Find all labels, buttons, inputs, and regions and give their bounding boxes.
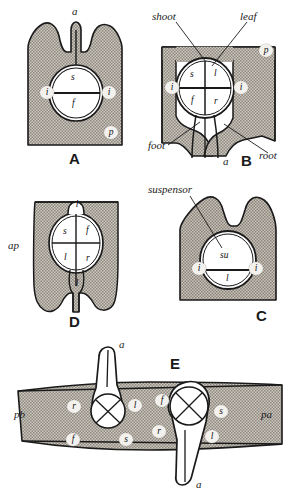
panel-d-bottom-l: l	[70, 277, 84, 290]
panel-e-left-r: r	[67, 400, 81, 413]
panel-e-left-f: f	[66, 433, 80, 446]
panel-letter-b: B	[241, 152, 252, 169]
panel-b-inner-r: r	[214, 96, 218, 106]
panel-c-drawing	[180, 196, 276, 300]
panel-a-side-right-i: i	[102, 86, 116, 99]
panel-e-right-f: f	[155, 394, 169, 407]
panel-d-drawing	[34, 202, 118, 312]
panel-b-tissue-p: p	[259, 44, 273, 57]
panel-letter-c: C	[256, 307, 267, 324]
panel-e-tissue-pb: pb	[14, 408, 25, 420]
panel-e-drawing	[18, 347, 282, 485]
callout-root: root	[259, 149, 277, 161]
callout-leaf: leaf	[240, 10, 257, 22]
panel-e-left-apex-a: a	[119, 338, 125, 350]
panel-b-drawing	[162, 22, 280, 158]
callout-shoot: shoot	[152, 10, 176, 22]
panel-letter-e: E	[170, 355, 180, 372]
panel-c-inner-su: su	[220, 250, 228, 260]
panel-e-left-l: l	[128, 399, 142, 412]
panel-e-right-r: r	[152, 425, 166, 438]
panel-e-right-s: s	[214, 405, 228, 418]
panel-e-right-l: l	[205, 430, 219, 443]
figure-root: a s f i i p A shoot leaf foot root s l f…	[0, 0, 294, 495]
panel-a-inner-s: s	[71, 72, 75, 82]
callout-suspensor: suspensor	[148, 183, 192, 195]
diagram-canvas	[0, 0, 294, 495]
panel-d-top-l: l	[70, 198, 84, 211]
panel-letter-a: A	[69, 150, 80, 167]
panel-d-inner-f: f	[86, 225, 89, 235]
panel-d-inner-l: l	[64, 252, 67, 262]
callout-foot: foot	[148, 139, 165, 151]
panel-d-inner-r: r	[86, 253, 90, 263]
panel-d-inner-s: s	[63, 226, 67, 236]
panel-b-inner-s: s	[190, 69, 194, 79]
panel-e-tissue-pa: pa	[261, 408, 272, 420]
panel-a-tissue-p: p	[104, 126, 118, 139]
panel-c-side-right-i: i	[249, 262, 263, 275]
panel-b-inner-f: f	[191, 95, 194, 105]
panel-b-inner-l: l	[214, 68, 217, 78]
panel-b-side-right-i: i	[234, 81, 248, 94]
panel-e-right-apex-a: a	[196, 478, 202, 490]
panel-b-side-left-i: i	[165, 81, 179, 94]
panel-a-side-left-i: i	[40, 86, 54, 99]
panel-e-left-s: s	[119, 433, 133, 446]
panel-d-tissue-ap: ap	[8, 239, 19, 251]
panel-c-side-left-i: i	[192, 262, 206, 275]
panel-letter-d: D	[69, 313, 80, 330]
panel-c-inner-l: l	[226, 273, 229, 283]
panel-a-apex-label: a	[72, 5, 78, 17]
panel-b-apex-label: a	[223, 155, 229, 167]
panel-a-inner-f: f	[72, 98, 75, 108]
